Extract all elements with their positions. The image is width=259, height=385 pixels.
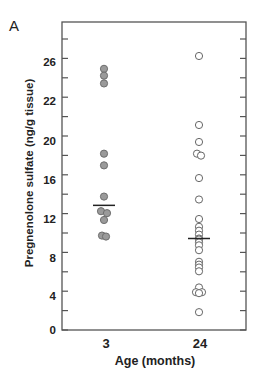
data-point xyxy=(195,215,202,222)
data-point xyxy=(100,193,107,200)
data-point xyxy=(195,138,202,145)
panel-label: A xyxy=(9,17,19,34)
scatter-chart: 0481216202226324 xyxy=(0,0,259,385)
y-tick-label: 12 xyxy=(43,213,56,225)
y-tick-label: 4 xyxy=(50,290,57,302)
x-category-label: 3 xyxy=(102,336,109,351)
data-point xyxy=(100,162,107,169)
data-point xyxy=(195,174,202,181)
y-tick-label: 20 xyxy=(43,135,56,147)
y-axis-title: Pregnenolone sulfate (ng/g tissue) xyxy=(23,68,35,278)
data-point xyxy=(100,65,107,72)
data-point xyxy=(100,150,107,157)
data-point xyxy=(100,216,107,223)
plot-frame xyxy=(62,22,246,330)
y-tick-label: 22 xyxy=(43,95,56,107)
x-category-label: 24 xyxy=(193,336,208,351)
y-tick-label: 26 xyxy=(43,56,56,68)
data-point xyxy=(195,52,202,59)
y-tick-label: 0 xyxy=(50,324,56,336)
y-tick-label: 8 xyxy=(50,252,57,264)
data-point xyxy=(100,72,107,79)
data-point xyxy=(195,196,202,203)
data-point xyxy=(100,80,107,87)
data-point xyxy=(195,290,202,297)
data-point xyxy=(102,233,109,240)
y-tick-label: 16 xyxy=(43,174,56,186)
data-point xyxy=(195,121,202,128)
data-point xyxy=(195,309,202,316)
x-axis-title: Age (months) xyxy=(90,354,220,368)
data-point xyxy=(195,268,202,275)
data-point xyxy=(195,247,202,254)
data-point xyxy=(197,152,204,159)
data-point xyxy=(103,210,110,217)
